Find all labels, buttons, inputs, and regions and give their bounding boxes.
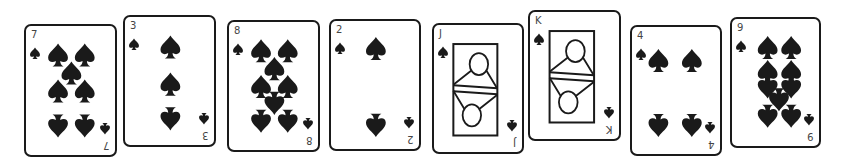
pip-spade-icon [48, 43, 68, 66]
rank-label-top: 7 [31, 30, 37, 40]
rank-label-top: 3 [130, 21, 136, 31]
corner-spade-icon [129, 39, 139, 51]
pip-spade-icon [682, 49, 702, 72]
card-pips [434, 25, 522, 152]
pip-spade-icon [160, 107, 180, 130]
pip-spade-icon [75, 115, 95, 138]
corner-spade-icon [507, 120, 517, 132]
corner-spade-icon [804, 114, 814, 126]
corner-spade-icon [604, 107, 614, 119]
rank-label-bottom: J [513, 137, 516, 147]
rank-label-bottom: 4 [708, 139, 714, 149]
corner-spade-icon [438, 47, 448, 59]
pip-spade-icon [366, 37, 386, 60]
pip-spade-icon [251, 110, 271, 133]
pip-spade-icon [160, 73, 180, 96]
corner-spade-icon [30, 48, 40, 60]
corner-spade-icon [636, 49, 646, 61]
playing-card[interactable]: 3 3 [123, 15, 216, 147]
face-card-portrait [550, 31, 595, 122]
pip-spade-icon [264, 57, 284, 80]
pip-spade-icon [682, 114, 702, 137]
pip-spade-icon [251, 39, 271, 62]
card-pips [229, 22, 318, 150]
rank-label-bottom: 3 [202, 130, 208, 140]
pip-spade-icon [649, 114, 669, 137]
face-card-portrait [453, 44, 497, 135]
corner-spade-icon [335, 43, 345, 55]
rank-label-bottom: K [606, 124, 613, 134]
pip-spade-icon [366, 114, 386, 137]
corner-spade-icon [736, 41, 746, 53]
rank-label-top: J [439, 29, 442, 39]
pip-spade-icon [75, 80, 95, 103]
rank-label-top: 9 [737, 23, 743, 33]
rank-label-top: K [535, 16, 542, 26]
pip-spade-icon [758, 105, 778, 128]
pip-spade-icon [758, 36, 778, 59]
pip-spade-icon [278, 75, 298, 98]
rank-label-bottom: 8 [306, 135, 312, 145]
pip-spade-icon [649, 49, 669, 72]
pip-spade-icon [61, 61, 81, 84]
pip-spade-icon [75, 43, 95, 66]
playing-card[interactable]: 8 8 [227, 20, 320, 152]
rank-label-bottom: 9 [807, 131, 813, 141]
playing-card[interactable]: 7 7 [24, 24, 117, 157]
card-pips [530, 12, 619, 139]
playing-card[interactable]: 9 9 [730, 17, 821, 148]
playing-card[interactable]: J J [432, 23, 524, 154]
rank-label-bottom: 7 [103, 140, 109, 150]
rank-label-top: 4 [637, 31, 643, 41]
corner-spade-icon [534, 34, 544, 46]
pip-spade-icon [251, 75, 271, 98]
pip-spade-icon [160, 35, 180, 58]
rank-label-bottom: 2 [407, 134, 413, 144]
playing-card[interactable]: 4 4 [630, 25, 722, 156]
corner-spade-icon [199, 113, 209, 125]
corner-spade-icon [233, 44, 243, 56]
pip-spade-icon [781, 36, 801, 59]
pip-spade-icon [278, 110, 298, 133]
pip-spade-icon [264, 92, 284, 115]
corner-spade-icon [100, 123, 110, 135]
rank-label-top: 8 [234, 26, 240, 36]
card-pips [26, 26, 115, 155]
pip-spade-icon [278, 39, 298, 62]
playing-card[interactable]: K K [528, 10, 621, 141]
card-pips [125, 17, 214, 145]
corner-spade-icon [705, 122, 715, 134]
pip-spade-icon [781, 105, 801, 128]
card-pips [732, 19, 819, 146]
pip-spade-icon [48, 115, 68, 138]
playing-card[interactable]: 2 2 [329, 19, 421, 151]
pip-spade-icon [48, 80, 68, 103]
corner-spade-icon [404, 117, 414, 129]
card-pips [632, 27, 720, 154]
corner-spade-icon [303, 118, 313, 130]
card-pips [331, 21, 419, 149]
rank-label-top: 2 [336, 25, 342, 35]
